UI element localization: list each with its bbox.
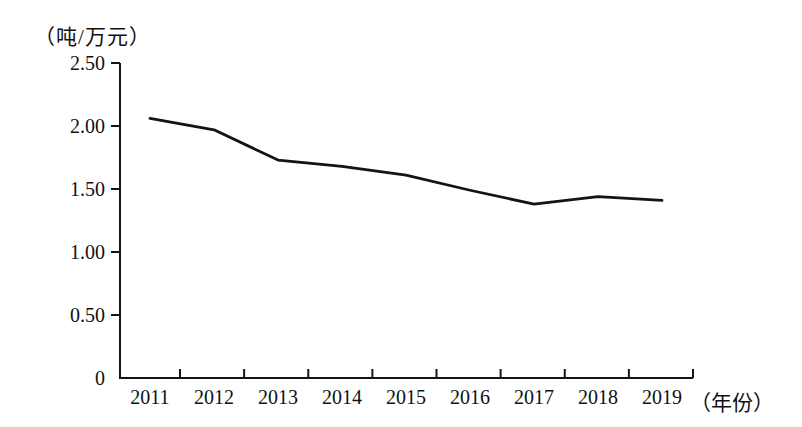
- x-tick-label: 2011: [130, 386, 169, 408]
- x-tick-label: 2019: [642, 386, 682, 408]
- x-tick-label: 2013: [258, 386, 298, 408]
- plot-area: 2.502.001.501.000.5002011201220132014201…: [0, 0, 802, 427]
- y-tick-label: 0.50: [70, 304, 105, 326]
- y-tick-label: 0: [95, 367, 105, 389]
- y-tick-label: 1.00: [70, 241, 105, 263]
- x-axis-year-label: （年份）: [690, 386, 774, 416]
- x-tick-label: 2015: [386, 386, 426, 408]
- x-tick-label: 2014: [322, 386, 362, 408]
- x-tick-label: 2017: [514, 386, 554, 408]
- x-tick-label: 2016: [450, 386, 490, 408]
- data-line-series: [150, 118, 662, 204]
- y-tick-label: 1.50: [70, 178, 105, 200]
- y-tick-label: 2.50: [70, 52, 105, 74]
- x-tick-label: 2018: [578, 386, 618, 408]
- y-tick-label: 2.00: [70, 115, 105, 137]
- line-chart: （吨/万元） 2.502.001.501.000.500201120122013…: [0, 0, 802, 427]
- x-tick-label: 2012: [194, 386, 234, 408]
